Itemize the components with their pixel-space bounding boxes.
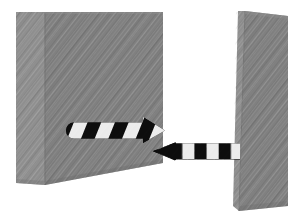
scene-svg (0, 0, 301, 222)
left-block (16, 12, 163, 185)
right-block (233, 11, 288, 211)
diagram-canvas (0, 0, 301, 222)
